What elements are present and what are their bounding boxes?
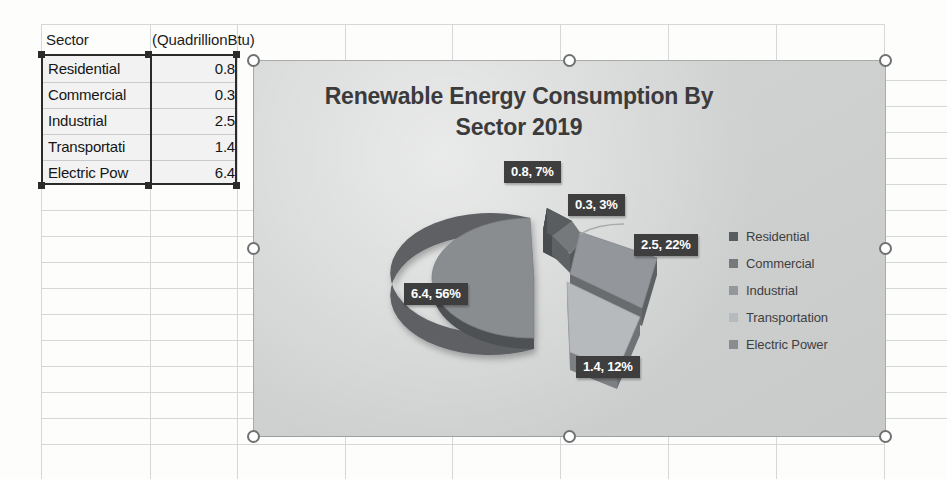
grid-hline xyxy=(886,184,947,185)
legend-item-transportation[interactable]: Transportation xyxy=(729,304,867,331)
grid-hline xyxy=(41,418,253,419)
grid-hline xyxy=(41,24,884,25)
legend-swatch-icon xyxy=(729,340,738,349)
chart-legend[interactable]: Residential Commercial Industrial Transp… xyxy=(729,223,867,358)
cell-sector-residential[interactable]: Residential xyxy=(48,60,148,77)
range-handle-bottom-left[interactable] xyxy=(38,182,45,189)
legend-label: Commercial xyxy=(746,256,814,271)
chart-handle-bottom-middle[interactable] xyxy=(563,430,576,443)
range-rowline xyxy=(43,160,235,161)
grid-hline xyxy=(41,392,253,393)
cell-sector-industrial[interactable]: Industrial xyxy=(48,112,148,129)
legend-label: Industrial xyxy=(746,283,798,298)
range-rowline xyxy=(43,108,235,109)
range-handle-top-left[interactable] xyxy=(38,51,45,58)
grid-hline xyxy=(886,392,947,393)
pie-chart-svg xyxy=(384,156,714,406)
grid-hline xyxy=(886,418,947,419)
chart-object[interactable]: Renewable Energy Consumption By Sector 2… xyxy=(253,60,886,437)
grid-hline xyxy=(41,236,253,237)
chart-title-line2: Sector 2019 xyxy=(456,114,583,140)
header-cell-unit[interactable]: (QuadrillionBtu) xyxy=(152,31,255,48)
grid-hline xyxy=(886,80,947,81)
grid-vline xyxy=(776,24,777,60)
cell-sector-commercial[interactable]: Commercial xyxy=(48,86,148,103)
chart-handle-bottom-right[interactable] xyxy=(879,430,892,443)
grid-hline xyxy=(886,288,947,289)
legend-swatch-icon xyxy=(729,286,738,295)
legend-swatch-icon xyxy=(729,232,738,241)
range-handle-bottom-middle[interactable] xyxy=(145,182,152,189)
cell-value-residential[interactable]: 0.8 xyxy=(155,60,235,77)
range-handle-top-right[interactable] xyxy=(233,51,240,58)
grid-vline xyxy=(560,24,561,60)
grid-vline xyxy=(668,24,669,60)
cell-sector-electric-power[interactable]: Electric Pow xyxy=(48,164,148,181)
grid-hline xyxy=(886,314,947,315)
cell-value-transportation[interactable]: 1.4 xyxy=(155,138,235,155)
cell-value-commercial[interactable]: 0.3 xyxy=(155,86,235,103)
data-label-electric-power[interactable]: 6.4, 56% xyxy=(404,283,468,305)
grid-vline xyxy=(237,24,238,479)
selected-cell-range[interactable]: Residential 0.8 Commercial 0.3 Industria… xyxy=(41,54,237,185)
range-handle-top-middle[interactable] xyxy=(145,51,152,58)
legend-swatch-icon xyxy=(729,259,738,268)
grid-hline xyxy=(41,262,253,263)
legend-label: Residential xyxy=(746,229,809,244)
grid-vline xyxy=(345,24,346,60)
pie-plot-area[interactable] xyxy=(384,156,714,406)
legend-label: Electric Power xyxy=(746,337,828,352)
data-label-commercial[interactable]: 0.3, 3% xyxy=(568,194,625,216)
grid-hline xyxy=(886,340,947,341)
grid-hline xyxy=(41,340,253,341)
chart-handle-bottom-left[interactable] xyxy=(247,430,260,443)
chart-handle-top-right[interactable] xyxy=(879,54,892,67)
grid-hline xyxy=(886,366,947,367)
range-rowline xyxy=(43,82,235,83)
grid-hline xyxy=(41,210,253,211)
cell-sector-transportation[interactable]: Transportati xyxy=(48,138,148,155)
data-label-industrial[interactable]: 2.5, 22% xyxy=(634,234,698,256)
data-label-residential[interactable]: 0.8, 7% xyxy=(504,161,561,183)
range-rowline xyxy=(43,134,235,135)
legend-item-residential[interactable]: Residential xyxy=(729,223,867,250)
grid-hline xyxy=(886,132,947,133)
grid-hline xyxy=(41,288,253,289)
cell-value-industrial[interactable]: 2.5 xyxy=(155,112,235,129)
legend-label: Transportation xyxy=(746,310,828,325)
chart-handle-top-left[interactable] xyxy=(247,54,260,67)
grid-hline xyxy=(886,210,947,211)
chart-title[interactable]: Renewable Energy Consumption By Sector 2… xyxy=(284,81,754,142)
grid-hline xyxy=(886,236,947,237)
grid-hline xyxy=(41,444,884,445)
chart-handle-middle-right[interactable] xyxy=(879,242,892,255)
grid-hline xyxy=(41,366,253,367)
legend-item-commercial[interactable]: Commercial xyxy=(729,250,867,277)
legend-item-industrial[interactable]: Industrial xyxy=(729,277,867,304)
grid-hline xyxy=(41,314,253,315)
grid-vline xyxy=(452,24,453,60)
chart-handle-top-middle[interactable] xyxy=(563,54,576,67)
range-handle-bottom-right[interactable] xyxy=(233,182,240,189)
grid-hline xyxy=(886,106,947,107)
grid-hline xyxy=(886,262,947,263)
data-label-transportation[interactable]: 1.4, 12% xyxy=(576,356,640,378)
legend-swatch-icon xyxy=(729,313,738,322)
legend-item-electric-power[interactable]: Electric Power xyxy=(729,331,867,358)
range-column-divider xyxy=(150,56,152,183)
cell-value-electric-power[interactable]: 6.4 xyxy=(155,164,235,181)
chart-handle-middle-left[interactable] xyxy=(247,242,260,255)
grid-hline xyxy=(886,158,947,159)
chart-title-line1: Renewable Energy Consumption By xyxy=(325,83,714,109)
header-cell-sector[interactable]: Sector xyxy=(46,31,89,48)
